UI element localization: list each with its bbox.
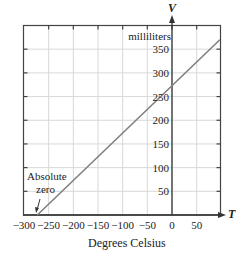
x-axis-arrow-icon	[218, 212, 226, 218]
x-tick-label: −150	[87, 219, 110, 231]
y-tick-label: 200	[153, 114, 170, 126]
x-axis-name: T	[228, 208, 235, 220]
y-tick-label: 300	[153, 67, 170, 79]
y-tick-label: 350	[153, 43, 170, 55]
x-tick-label: −200	[62, 219, 85, 231]
data-series-line	[37, 40, 220, 215]
absolute-zero-arrowhead-icon	[35, 207, 39, 213]
chart-canvas	[0, 0, 248, 253]
x-tick-label: −100	[111, 219, 134, 231]
frame-ticks	[24, 26, 221, 192]
y-axis-label: milliliters	[128, 30, 171, 42]
y-tick-label: 100	[153, 162, 170, 174]
x-tick-label: −50	[139, 219, 156, 231]
x-tick-label: 0	[169, 219, 175, 231]
x-tick-label: −300	[13, 219, 36, 231]
y-axis-name: V	[168, 2, 176, 14]
x-tick-label: 50	[191, 219, 202, 231]
y-axis-arrow-icon	[169, 15, 175, 23]
annotation-absolute-zero-line2: zero	[36, 183, 55, 195]
y-tick-label: 50	[158, 185, 169, 197]
annotation-absolute-zero-line1: Absolute	[27, 170, 67, 182]
y-tick-label: 150	[153, 138, 170, 150]
x-tick-label: −250	[37, 219, 60, 231]
x-axis-label: Degrees Celsius	[88, 237, 166, 249]
y-tick-label: 250	[153, 91, 170, 103]
